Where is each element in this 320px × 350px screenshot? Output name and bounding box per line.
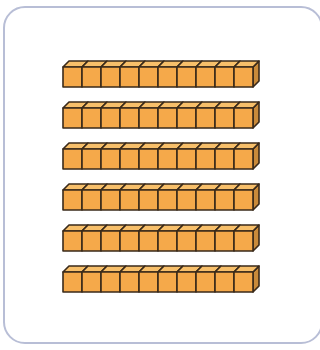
base-ten-rods-diagram (0, 0, 301, 350)
unit-cube (158, 108, 177, 128)
unit-cube (63, 231, 82, 251)
unit-cube (158, 190, 177, 210)
unit-cube (196, 108, 215, 128)
unit-cube (139, 108, 158, 128)
unit-cube (82, 190, 101, 210)
unit-cube (196, 231, 215, 251)
unit-cube (101, 67, 120, 87)
unit-cube (82, 231, 101, 251)
unit-cube (196, 272, 215, 292)
unit-cube (158, 67, 177, 87)
ten-rod (63, 266, 259, 292)
unit-cube (215, 108, 234, 128)
ten-rod (63, 143, 259, 169)
unit-cube (196, 190, 215, 210)
unit-cube (177, 190, 196, 210)
unit-cube (234, 272, 253, 292)
unit-cube (215, 67, 234, 87)
unit-cube (177, 67, 196, 87)
unit-cube (63, 149, 82, 169)
unit-cube (196, 67, 215, 87)
unit-cube (139, 67, 158, 87)
unit-cube (158, 149, 177, 169)
unit-cube (177, 149, 196, 169)
unit-cube (101, 108, 120, 128)
unit-cube (139, 231, 158, 251)
ten-rod (63, 184, 259, 210)
ten-rod (63, 61, 259, 87)
unit-cube (234, 149, 253, 169)
unit-cube (63, 190, 82, 210)
ten-rod (63, 102, 259, 128)
unit-cube (120, 108, 139, 128)
unit-cube (215, 231, 234, 251)
unit-cube (234, 67, 253, 87)
unit-cube (120, 190, 139, 210)
unit-cube (234, 190, 253, 210)
unit-cube (63, 108, 82, 128)
unit-cube (215, 149, 234, 169)
unit-cube (139, 149, 158, 169)
unit-cube (120, 231, 139, 251)
unit-cube (82, 108, 101, 128)
unit-cube (139, 272, 158, 292)
unit-cube (177, 231, 196, 251)
unit-cube (177, 272, 196, 292)
unit-cube (82, 272, 101, 292)
unit-cube (234, 231, 253, 251)
unit-cube (63, 67, 82, 87)
ten-rod (63, 225, 259, 251)
unit-cube (215, 190, 234, 210)
unit-cube (120, 67, 139, 87)
unit-cube (82, 149, 101, 169)
unit-cube (139, 190, 158, 210)
unit-cube (120, 149, 139, 169)
unit-cube (101, 272, 120, 292)
unit-cube (82, 67, 101, 87)
unit-cube (177, 108, 196, 128)
unit-cube (158, 272, 177, 292)
unit-cube (196, 149, 215, 169)
unit-cube (215, 272, 234, 292)
unit-cube (120, 272, 139, 292)
unit-cube (234, 108, 253, 128)
unit-cube (101, 149, 120, 169)
unit-cube (158, 231, 177, 251)
unit-cube (63, 272, 82, 292)
unit-cube (101, 190, 120, 210)
unit-cube (101, 231, 120, 251)
